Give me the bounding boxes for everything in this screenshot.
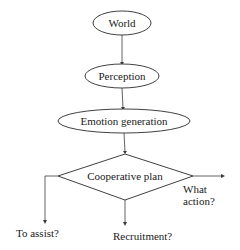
edge-emotion-coop (124, 133, 125, 152)
node-world-label: World (108, 17, 136, 29)
node-perception: Perception (85, 64, 159, 88)
node-emotion-label: Emotion generation (80, 115, 168, 127)
outcome-what-action-line1: What (183, 183, 207, 195)
outcome-what-action-line2: action? (183, 195, 215, 207)
flowchart: World Perception Emotion generation Coop… (0, 0, 240, 250)
edge-coop-to-assist (45, 176, 58, 221)
node-emotion-generation: Emotion generation (58, 109, 190, 133)
arrowhead-icon (123, 222, 127, 226)
outcome-to-assist: To assist? (16, 227, 59, 239)
node-perception-label: Perception (98, 70, 146, 82)
node-world: World (93, 11, 151, 35)
outcome-recruitment: Recruitment? (113, 230, 172, 242)
node-coop-label: Cooperative plan (87, 170, 163, 182)
arrowhead-icon (221, 174, 225, 178)
node-cooperative-plan: Cooperative plan (58, 154, 193, 200)
arrowhead-icon (43, 220, 47, 224)
edge-perception-emotion (122, 88, 123, 108)
